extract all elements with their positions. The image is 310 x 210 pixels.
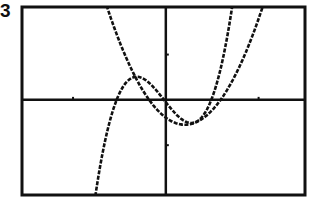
parabola-curve xyxy=(100,0,269,125)
graph-plot xyxy=(0,0,310,210)
curves xyxy=(93,0,269,210)
cubic-curve xyxy=(93,0,235,210)
